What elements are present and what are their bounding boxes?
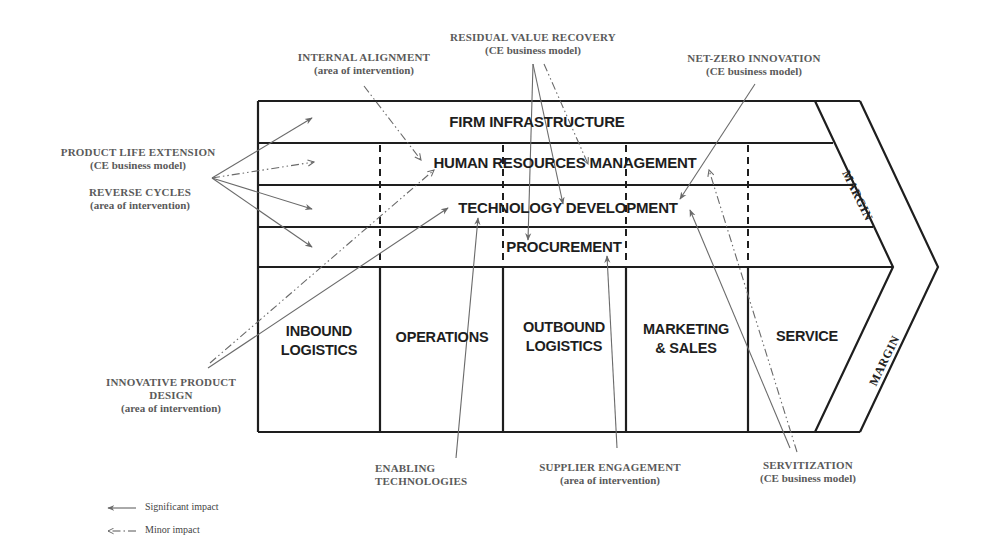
annotation-net-zero-innovation-sub: (CE business model) [687,65,821,78]
primary-operations-line1: OPERATIONS [396,328,489,347]
legend-minor-label: Minor impact [145,524,200,535]
support-technology-development: TECHNOLOGY DEVELOPMENT [458,199,678,216]
arrow-ple-firm [212,118,312,178]
primary-marketing-sales-line1: MARKETING [643,320,729,339]
primary-outbound-logistics-line2: LOGISTICS [523,337,605,356]
legend-minor: Minor impact [145,524,200,535]
primary-operations: OPERATIONS [396,328,489,347]
annotation-servitization-sub: (CE business model) [760,472,856,485]
primary-service: SERVICE [776,327,838,346]
value-chain-diagram: FIRM INFRASTRUCTURE HUMAN RESOURCES MANA… [0,0,981,550]
legend-significant-label: Significant impact [145,501,219,512]
annotation-reverse-cycles-title: REVERSE CYCLES [89,186,191,199]
primary-marketing-sales: MARKETING & SALES [643,320,729,358]
annotation-net-zero-innovation: NET-ZERO INNOVATION (CE business model) [687,52,821,78]
annotation-residual-value-recovery-title: RESIDUAL VALUE RECOVERY [450,31,616,44]
annotation-internal-alignment-title: INTERNAL ALIGNMENT [298,51,430,64]
annotation-product-life-extension-title: PRODUCT LIFE EXTENSION [61,146,216,159]
annotation-product-life-extension: PRODUCT LIFE EXTENSION (CE business mode… [61,146,216,172]
annotation-net-zero-innovation-title: NET-ZERO INNOVATION [687,52,821,65]
primary-marketing-sales-line2: & SALES [643,339,729,358]
arrow-se-proc [607,256,617,448]
annotation-supplier-engagement: SUPPLIER ENGAGEMENT (area of interventio… [539,461,681,487]
annotation-residual-value-recovery-sub: (CE business model) [450,44,616,57]
annotation-enabling-technologies: ENABLING TECHNOLOGIES [375,462,467,488]
annotation-enabling-technologies-title2: TECHNOLOGIES [375,475,467,488]
annotation-supplier-engagement-title: SUPPLIER ENGAGEMENT [539,461,681,474]
primary-inbound-logistics: INBOUND LOGISTICS [281,322,357,360]
annotation-reverse-cycles-sub: (area of intervention) [89,199,191,212]
support-firm-infrastructure: FIRM INFRASTRUCTURE [449,113,624,130]
arrow-ia-hr [364,86,421,160]
annotation-internal-alignment-sub: (area of intervention) [298,64,430,77]
annotation-servitization: SERVITIZATION (CE business model) [760,459,856,485]
arrow-serv-hr [709,170,797,452]
primary-outbound-logistics-line1: OUTBOUND [523,318,605,337]
primary-outbound-logistics: OUTBOUND LOGISTICS [523,318,605,356]
primary-inbound-logistics-line2: LOGISTICS [281,341,357,360]
primary-service-line1: SERVICE [776,327,838,346]
legend-significant: Significant impact [145,501,219,512]
primary-inbound-logistics-line1: INBOUND [281,322,357,341]
annotation-product-life-extension-sub: (CE business model) [61,159,216,172]
annotation-innovative-product-design-title2: DESIGN [106,389,236,402]
annotation-innovative-product-design-title1: INNOVATIVE PRODUCT [106,376,236,389]
arrow-ple-hr [212,162,314,178]
annotation-internal-alignment: INTERNAL ALIGNMENT (area of intervention… [298,51,430,77]
arrow-ple-tech [212,178,312,209]
arrow-rvr-tech [533,64,563,204]
annotation-innovative-product-design-sub: (area of intervention) [106,402,236,415]
legend-graphics [108,508,136,531]
arrow-ple-proc [212,178,312,247]
support-human-resources-management: HUMAN RESOURCES MANAGEMENT [433,154,696,171]
annotation-supplier-engagement-sub: (area of intervention) [539,474,681,487]
annotation-innovative-product-design: INNOVATIVE PRODUCT DESIGN (area of inter… [106,376,236,415]
annotation-residual-value-recovery: RESIDUAL VALUE RECOVERY (CE business mod… [450,31,616,57]
support-procurement: PROCUREMENT [506,238,621,255]
annotation-servitization-title: SERVITIZATION [760,459,856,472]
annotation-enabling-technologies-title1: ENABLING [375,462,467,475]
annotation-reverse-cycles: REVERSE CYCLES (area of intervention) [89,186,191,212]
